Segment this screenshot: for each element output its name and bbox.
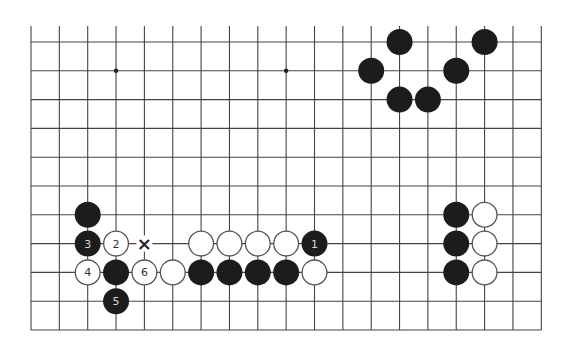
white-stone-6: 6 [132, 260, 157, 285]
black-stone [443, 259, 469, 285]
black-stone [472, 29, 498, 55]
move-number-label: 6 [141, 266, 148, 279]
move-number-label: 1 [311, 238, 318, 251]
go-board: × 321465 [0, 0, 562, 355]
black-stone [415, 87, 441, 113]
black-stone-5: 5 [103, 288, 129, 314]
board-marks: × [136, 233, 152, 254]
x-mark: × [137, 233, 152, 254]
white-stone-4: 4 [75, 260, 100, 285]
black-stone [188, 259, 214, 285]
black-stone [358, 58, 384, 84]
white-stone [274, 231, 299, 256]
white-stone [217, 231, 242, 256]
white-stone-2: 2 [104, 231, 129, 256]
black-stone-3: 3 [75, 231, 101, 257]
black-stone [75, 202, 101, 228]
white-stone [245, 231, 270, 256]
move-number-label: 5 [113, 295, 120, 308]
white-stone [160, 260, 185, 285]
black-stone-1: 1 [302, 231, 328, 257]
star-point [284, 69, 288, 73]
black-stone [443, 231, 469, 257]
star-point [114, 69, 118, 73]
white-stone [472, 260, 497, 285]
move-number-label: 3 [84, 238, 91, 251]
black-stone [443, 58, 469, 84]
black-stone [443, 202, 469, 228]
black-stone [387, 29, 413, 55]
move-number-label: 2 [113, 238, 120, 251]
move-number-label: 4 [84, 266, 91, 279]
white-stone [472, 231, 497, 256]
black-stone [216, 259, 242, 285]
black-stone [245, 259, 271, 285]
white-stone [472, 202, 497, 227]
black-stone [273, 259, 299, 285]
black-stone [387, 87, 413, 113]
white-stone [302, 260, 327, 285]
white-stone [189, 231, 214, 256]
black-stone [103, 259, 129, 285]
